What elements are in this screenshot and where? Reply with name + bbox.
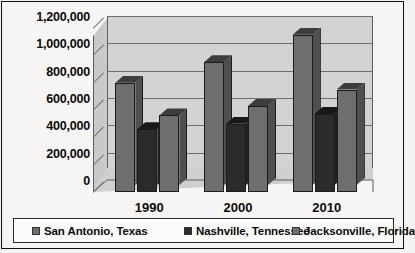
gridline bbox=[107, 43, 373, 44]
gridline bbox=[107, 16, 373, 17]
bar-front-face bbox=[315, 114, 335, 192]
bar[interactable] bbox=[226, 117, 246, 192]
y-axis-labels: 0200,000400,000600,000800,0001,000,0001,… bbox=[4, 0, 90, 253]
y-axis-tick-label: 0 bbox=[6, 174, 90, 188]
bar[interactable] bbox=[137, 122, 157, 192]
y-axis-tick-label: 1,200,000 bbox=[6, 10, 90, 24]
y-axis-tick-label: 600,000 bbox=[6, 92, 90, 106]
chart-legend: San Antonio, TexasNashville, TennesseeJa… bbox=[13, 218, 394, 243]
legend-item[interactable]: San Antonio, Texas bbox=[32, 225, 148, 237]
bar-front-face bbox=[115, 83, 135, 192]
bar-front-face bbox=[137, 129, 157, 192]
bar-side-face bbox=[357, 83, 365, 186]
legend-swatch-icon bbox=[184, 227, 192, 235]
bar-front-face bbox=[159, 115, 179, 192]
bar-side-face bbox=[179, 108, 187, 185]
bar-front-face bbox=[248, 106, 268, 192]
bar-side-face bbox=[268, 99, 276, 185]
bar[interactable] bbox=[204, 55, 224, 192]
x-axis-tick-label: 2000 bbox=[224, 200, 253, 215]
gridline bbox=[107, 71, 373, 72]
y-axis-tick-label: 400,000 bbox=[6, 119, 90, 133]
bar-front-face bbox=[204, 62, 224, 192]
bar[interactable] bbox=[115, 76, 135, 192]
legend-label: Jacksonville, Florida bbox=[304, 225, 415, 237]
bar-front-face bbox=[337, 90, 357, 193]
bar[interactable] bbox=[159, 108, 179, 192]
legend-label: San Antonio, Texas bbox=[44, 225, 148, 237]
bar[interactable] bbox=[248, 99, 268, 192]
gridline bbox=[107, 98, 373, 99]
bar-front-face bbox=[226, 124, 246, 192]
x-axis-tick-label: 1990 bbox=[135, 200, 164, 215]
legend-swatch-icon bbox=[292, 227, 300, 235]
y-axis-tick-label: 1,000,000 bbox=[6, 37, 90, 51]
bar-front-face bbox=[293, 35, 313, 192]
plot-area bbox=[93, 16, 373, 192]
bar[interactable] bbox=[337, 83, 357, 193]
x-axis-tick-label: 2010 bbox=[312, 200, 341, 215]
y-axis-tick-label: 200,000 bbox=[6, 147, 90, 161]
bar[interactable] bbox=[293, 28, 313, 192]
bar[interactable] bbox=[315, 107, 335, 192]
legend-item[interactable]: Jacksonville, Florida bbox=[292, 225, 415, 237]
y-axis-tick-label: 800,000 bbox=[6, 65, 90, 79]
legend-item[interactable]: Nashville, Tennessee bbox=[184, 225, 309, 237]
legend-swatch-icon bbox=[32, 227, 40, 235]
